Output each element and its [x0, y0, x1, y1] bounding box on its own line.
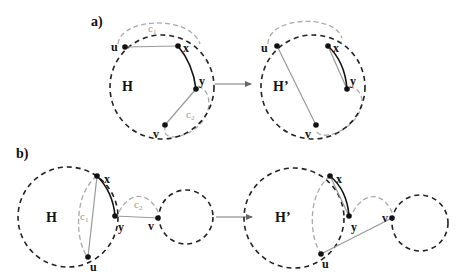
vertex-y: [193, 86, 199, 92]
component-right-boundary: [392, 195, 448, 251]
vertex-y: [112, 213, 118, 219]
label-x: x: [104, 172, 110, 186]
vertex-x: [94, 173, 100, 179]
label-y: y: [199, 74, 205, 88]
graph-label-h: H: [46, 210, 57, 225]
graph-label-h: H: [122, 79, 133, 94]
vertex-x: [325, 43, 331, 49]
edge-x-u: [88, 176, 97, 257]
label-v: v: [148, 219, 154, 233]
vertex-y: [344, 86, 350, 92]
label-u: u: [111, 40, 118, 54]
vertex-v: [389, 215, 395, 221]
label-x: x: [336, 172, 342, 186]
label-u: u: [261, 41, 268, 55]
label-v: v: [153, 127, 159, 141]
vertex-x: [327, 173, 333, 179]
cycle-c1-label: c1: [148, 22, 157, 36]
vertex-x: [175, 43, 181, 49]
vertex-v: [155, 215, 161, 221]
panel-b-after: x y u v H’: [244, 168, 448, 271]
edge-u-x: [125, 46, 178, 47]
cycle-gray-lens: [312, 176, 330, 253]
component-right-boundary: [159, 190, 213, 244]
vertex-u: [122, 44, 128, 50]
graph-label-h-prime: H’: [273, 79, 289, 94]
label-y: y: [350, 74, 356, 88]
transformation-diagram: a) u x y v H c1 c2: [0, 0, 463, 277]
label-v: v: [382, 211, 388, 225]
panel-b-before: x y u v H c1 c2: [18, 167, 213, 274]
graph-label-h-prime: H’: [275, 210, 291, 225]
label-u: u: [90, 260, 97, 274]
graph-h-prime-boundary: [244, 168, 344, 268]
vertex-u: [85, 254, 91, 260]
label-v: v: [305, 127, 311, 141]
label-y: y: [118, 220, 124, 234]
cycle-c2-label: c2: [134, 198, 143, 212]
label-y: y: [351, 220, 357, 234]
panel-a-label: a): [91, 14, 103, 30]
cycle-gray-top: [268, 21, 342, 44]
label-x: x: [333, 41, 339, 55]
panel-a-before: u x y v H c1 c2: [110, 22, 214, 141]
cycle-c2-label: c2: [186, 108, 195, 122]
cycle-c1-label: c1: [80, 210, 89, 224]
vertex-y: [346, 213, 352, 219]
cycle-gray-right: [316, 87, 362, 135]
panel-a-after: u x y v H’: [261, 21, 365, 141]
vertex-v: [162, 122, 168, 128]
vertex-u: [274, 43, 280, 49]
vertex-v: [313, 122, 319, 128]
vertex-u: [318, 251, 324, 257]
label-u: u: [322, 257, 329, 271]
edge-y-v: [115, 216, 158, 218]
label-x: x: [183, 41, 189, 55]
panel-b-label: b): [16, 146, 29, 162]
